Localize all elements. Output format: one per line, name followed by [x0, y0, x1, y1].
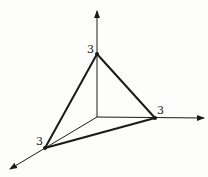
horizontal-axis — [97, 117, 204, 118]
vertex-top — [95, 52, 99, 56]
diagram-canvas: 3 3 3 — [0, 0, 208, 177]
triangle-edge-bottom — [45, 118, 155, 148]
intercept-label-horizontal: 3 — [157, 105, 164, 116]
intercept-label-vertical: 3 — [87, 44, 94, 55]
triangle-edge-top-left — [45, 54, 97, 148]
intercept-label-depth: 3 — [36, 136, 43, 147]
axes-and-plane — [0, 0, 208, 177]
vertex-left — [43, 146, 47, 150]
depth-axis — [10, 117, 97, 169]
triangle-edge-top-right — [97, 54, 155, 118]
